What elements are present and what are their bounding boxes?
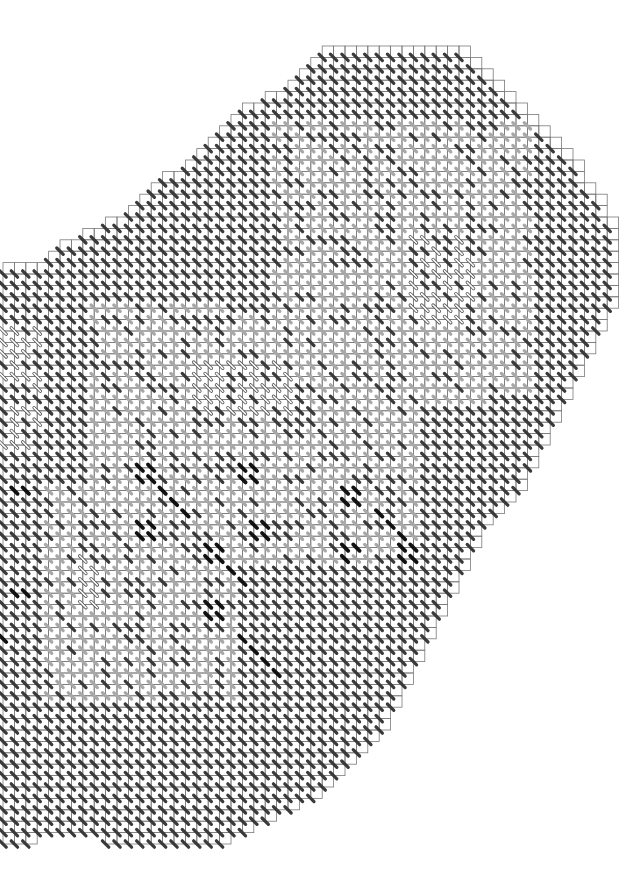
stitch-mark	[182, 658, 188, 664]
stitch-mark	[125, 351, 131, 357]
stitch-mark	[228, 430, 234, 436]
stitch-mark	[365, 567, 371, 573]
stitch-mark	[399, 579, 405, 585]
stitch-mark	[330, 157, 336, 163]
stitch-mark	[182, 362, 188, 368]
stitch-mark	[171, 738, 177, 744]
stitch-mark	[387, 624, 393, 630]
stitch-mark	[34, 693, 40, 699]
stitch-mark	[137, 829, 143, 835]
stitch-mark	[342, 282, 348, 288]
stitch-mark	[444, 168, 450, 174]
stitch-mark	[68, 818, 74, 824]
stitch-mark	[536, 145, 542, 151]
stitch-mark	[182, 601, 188, 607]
stitch-mark	[102, 225, 108, 231]
stitch-mark	[262, 476, 268, 482]
stitch-mark	[137, 613, 143, 619]
stitch-mark	[182, 567, 188, 573]
stitch-mark	[273, 750, 279, 756]
stitch-mark	[205, 316, 211, 322]
stitch-mark	[444, 556, 450, 562]
stitch-mark	[365, 727, 371, 733]
stitch-mark	[330, 658, 336, 664]
stitch-mark	[194, 237, 200, 243]
stitch-mark	[387, 487, 393, 493]
stitch-mark	[45, 807, 51, 813]
chart-cell	[584, 183, 595, 194]
stitch-mark	[148, 465, 154, 471]
stitch-mark	[330, 647, 336, 653]
stitch-mark	[137, 396, 143, 402]
stitch-mark	[194, 681, 200, 687]
stitch-mark	[80, 316, 86, 322]
stitch-mark	[376, 123, 382, 129]
stitch-mark	[239, 248, 245, 254]
stitch-mark	[148, 784, 154, 790]
stitch-mark	[68, 316, 74, 322]
stitch-mark	[422, 396, 428, 402]
stitch-mark	[319, 351, 325, 357]
stitch-mark	[422, 544, 428, 550]
stitch-mark	[410, 533, 416, 539]
stitch-mark	[376, 636, 382, 642]
stitch-mark	[422, 225, 428, 231]
stitch-mark	[444, 202, 450, 208]
stitch-mark	[125, 419, 131, 425]
stitch-mark	[342, 373, 348, 379]
stitch-mark	[262, 430, 268, 436]
stitch-mark	[239, 442, 245, 448]
stitch-mark	[342, 556, 348, 562]
stitch-mark	[273, 294, 279, 300]
stitch-mark	[285, 522, 291, 528]
stitch-mark	[319, 248, 325, 254]
stitch-mark	[57, 670, 63, 676]
stitch-mark	[137, 408, 143, 414]
stitch-mark	[387, 533, 393, 539]
stitch-mark	[422, 590, 428, 596]
stitch-mark	[593, 282, 599, 288]
stitch-mark	[570, 259, 576, 265]
stitch-mark	[422, 271, 428, 277]
stitch-mark	[308, 681, 314, 687]
stitch-mark	[501, 430, 507, 436]
stitch-mark	[148, 567, 154, 573]
stitch-mark	[308, 100, 314, 106]
stitch-mark	[182, 180, 188, 186]
stitch-mark	[273, 168, 279, 174]
stitch-mark	[365, 647, 371, 653]
stitch-mark	[467, 362, 473, 368]
stitch-mark	[239, 487, 245, 493]
stitch-mark	[182, 624, 188, 630]
stitch-mark	[23, 453, 29, 459]
stitch-mark	[308, 556, 314, 562]
stitch-mark	[68, 499, 74, 505]
stitch-mark	[353, 453, 359, 459]
stitch-mark	[182, 316, 188, 322]
stitch-mark	[239, 601, 245, 607]
stitch-mark	[125, 636, 131, 642]
stitch-mark	[399, 430, 405, 436]
stitch-mark	[34, 556, 40, 562]
stitch-mark	[296, 476, 302, 482]
stitch-mark	[228, 202, 234, 208]
stitch-mark	[114, 738, 120, 744]
stitch-mark	[490, 339, 496, 345]
stitch-mark	[137, 818, 143, 824]
stitch-mark	[159, 362, 165, 368]
stitch-mark	[228, 453, 234, 459]
stitch-mark	[444, 385, 450, 391]
stitch-mark	[342, 237, 348, 243]
stitch-mark	[319, 647, 325, 653]
stitch-mark	[433, 123, 439, 129]
stitch-mark	[365, 522, 371, 528]
stitch-mark	[194, 282, 200, 288]
stitch-mark	[308, 795, 314, 801]
stitch-mark	[296, 670, 302, 676]
stitch-mark	[376, 339, 382, 345]
stitch-mark	[319, 385, 325, 391]
stitch-mark	[330, 567, 336, 573]
stitch-mark	[239, 681, 245, 687]
stitch-mark	[330, 419, 336, 425]
stitch-mark	[194, 465, 200, 471]
